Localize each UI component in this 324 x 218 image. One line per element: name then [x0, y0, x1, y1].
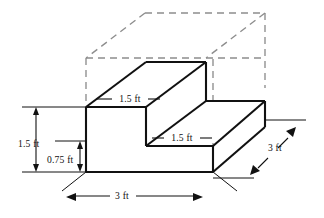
hidden-edge-top-right-diag: [206, 13, 265, 58]
dim-line-depth-lower: [258, 158, 268, 168]
hidden-edge-top-left-diag: [86, 13, 145, 58]
ext-line-right-width: [213, 172, 237, 191]
arrowhead-down-step: [77, 164, 83, 172]
label-width-front: 3 ft: [115, 190, 129, 201]
figure-canvas: 1.5 ft 0.75 ft 3 ft 3: [0, 0, 324, 218]
arrowhead-down-total: [33, 164, 39, 172]
dimension-width-front: 3 ft: [62, 172, 237, 201]
ext-line-left-width: [62, 172, 86, 191]
arrowhead-up-total: [33, 107, 39, 115]
solid-faces: [86, 62, 265, 172]
label-height-total: 1.5 ft: [18, 138, 40, 149]
arrowhead-left-width: [66, 193, 76, 201]
label-tread-upper: 1.5 ft: [119, 93, 141, 104]
label-height-step: 0.75 ft: [47, 154, 74, 165]
label-depth-side: 3 ft: [268, 142, 282, 153]
arrowhead-upper-depth: [286, 127, 296, 137]
arrowhead-lower-depth: [250, 165, 260, 175]
arrowhead-up-step: [77, 141, 83, 149]
technical-drawing-svg: 1.5 ft 0.75 ft 3 ft 3: [0, 0, 324, 218]
label-tread-lower: 1.5 ft: [171, 132, 193, 143]
dimension-height-step: 0.75 ft: [47, 141, 86, 172]
arrowhead-right-width: [193, 193, 203, 201]
